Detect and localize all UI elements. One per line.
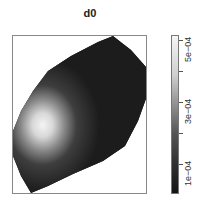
plot-area [12,35,147,194]
colorbar-tick [179,133,183,134]
colorbar-tick-label: 5e−04 [183,37,193,62]
colorbar-tick-label: 1e−04 [183,161,193,186]
density-heatmap [13,36,147,194]
colorbar-tick-label: 3e−04 [183,99,193,124]
chart-title: d0 [0,7,180,19]
colorbar [171,35,179,194]
colorbar-tick [179,71,183,72]
